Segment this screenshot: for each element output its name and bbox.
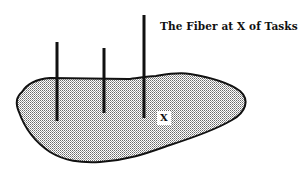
base-space-blob [17, 73, 246, 162]
fiber-line-2 [103, 48, 106, 113]
fiber-line-1 [56, 42, 59, 121]
diagram-title: The Fiber at X of Tasks [160, 20, 298, 32]
point-x-label: X [157, 111, 171, 125]
fiber-line-3 [143, 15, 146, 118]
